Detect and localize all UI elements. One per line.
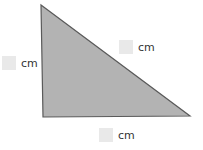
hypotenuse-label: cm	[119, 40, 155, 54]
right-triangle	[41, 5, 190, 117]
left-side-answer-box[interactable]	[2, 56, 16, 70]
hypotenuse-answer-box[interactable]	[119, 40, 133, 54]
left-side-unit: cm	[21, 57, 38, 70]
left-side-label: cm	[2, 56, 38, 70]
bottom-side-answer-box[interactable]	[99, 128, 113, 142]
bottom-side-label: cm	[99, 128, 135, 142]
hypotenuse-unit: cm	[138, 41, 155, 54]
bottom-side-unit: cm	[118, 129, 135, 142]
